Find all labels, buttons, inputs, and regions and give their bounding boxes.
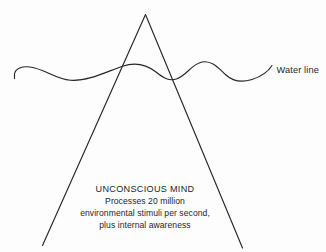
diagram-canvas: Water line UNCONSCIOUS MIND Processes 20…: [0, 0, 326, 252]
water-line-curve: [15, 62, 273, 82]
caption-line-1: Processes 20 million: [105, 196, 185, 206]
iceberg-diagram: Water line UNCONSCIOUS MIND Processes 20…: [0, 0, 326, 252]
caption-line-2: environmental stimuli per second,: [80, 208, 210, 218]
water-line-label: Water line: [277, 65, 320, 75]
unconscious-mind-heading: UNCONSCIOUS MIND: [96, 184, 195, 194]
caption-line-3: plus internal awareness: [99, 220, 190, 230]
